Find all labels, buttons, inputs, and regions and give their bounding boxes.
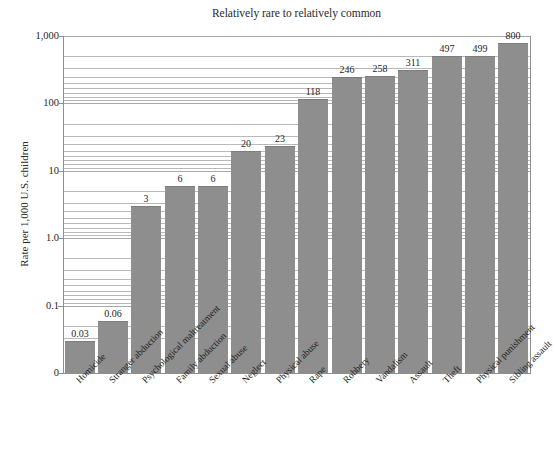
x-axis-tick-label: Neglect [240, 357, 269, 386]
x-axis-tick-label: Theft [441, 363, 463, 385]
x-axis-tick-label: Rape [307, 364, 329, 386]
x-axis-tick-label: Assault [407, 358, 435, 386]
x-axis-tick-label: Stranger abduction [107, 327, 166, 386]
x-axis-tick-label: Homicide [74, 352, 108, 386]
x-axis-tick-label: Physical punishment [474, 322, 538, 386]
x-axis-tick-label: Vandalism [374, 350, 410, 386]
x-axis-tick-label: Robbery [341, 355, 372, 386]
